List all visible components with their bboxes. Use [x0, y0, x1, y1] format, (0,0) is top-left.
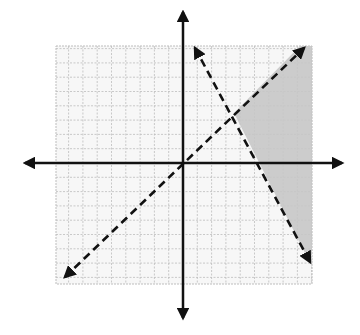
coordinate-plane-graph [0, 0, 360, 335]
